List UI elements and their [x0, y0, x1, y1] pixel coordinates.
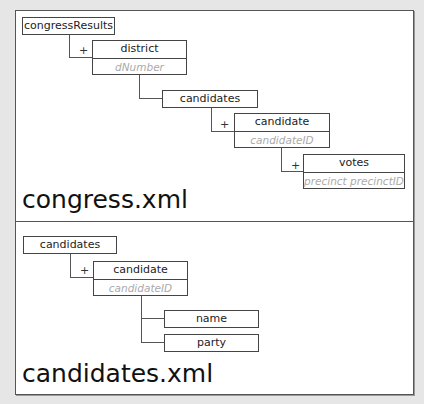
connector [141, 296, 142, 343]
connector [69, 35, 70, 58]
repeat-marker: + [80, 264, 89, 277]
node-candidates-root: candidates [23, 236, 117, 254]
node-attribute: precinct precinctID [304, 172, 404, 190]
connector [70, 254, 71, 278]
node-attribute: candidateID [235, 131, 329, 149]
node-label: congressResults [23, 18, 114, 35]
connector [139, 98, 163, 99]
node-label: name [165, 311, 258, 328]
node-label: candidate [94, 262, 187, 279]
node-name: name [164, 310, 259, 328]
repeat-marker: + [291, 159, 300, 172]
node-candidate: candidate candidateID [93, 261, 188, 296]
connector [141, 342, 165, 343]
node-attribute: dNumber [93, 58, 186, 76]
node-label: party [165, 335, 258, 352]
node-label: votes [304, 155, 404, 172]
connector [70, 277, 94, 278]
connector [139, 75, 140, 99]
node-label: candidates [24, 237, 116, 254]
file-label-candidates: candidates.xml [22, 359, 213, 388]
connector [211, 131, 235, 132]
section-divider [15, 221, 413, 222]
node-label: district [93, 41, 186, 58]
file-label-congress: congress.xml [22, 185, 188, 214]
node-congressResults: congressResults [22, 17, 115, 35]
connector [281, 148, 282, 172]
node-label: candidates [163, 91, 257, 108]
node-votes: votes precinct precinctID [303, 154, 405, 189]
repeat-marker: + [79, 44, 88, 57]
node-district: district dNumber [92, 40, 187, 75]
node-party: party [164, 334, 259, 352]
connector [141, 318, 165, 319]
repeat-marker: + [220, 118, 229, 131]
connector [69, 57, 93, 58]
node-attribute: candidateID [94, 279, 187, 297]
node-label: candidate [235, 114, 329, 131]
node-candidate: candidate candidateID [234, 113, 330, 148]
connector [211, 108, 212, 132]
node-candidates: candidates [162, 90, 258, 108]
